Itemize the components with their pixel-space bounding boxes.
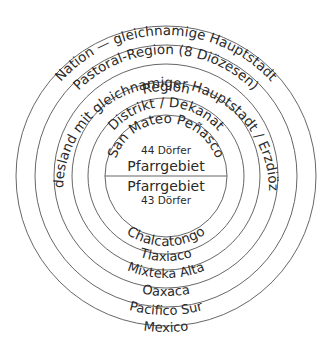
lower-village-count: 43 Dörfer [141,194,192,206]
label-mexico: Mexico [143,318,189,335]
lower-parish-label: Pfarrgebiet [127,178,205,194]
upper-parish-label: Pfarrgebiet [127,158,205,174]
upper-village-count: 44 Dörfer [141,144,192,156]
label-oaxaca: Oaxaca [141,282,191,299]
nested-hierarchy-diagram: Nation — gleichnamige Hauptstadt Pastora… [0,0,330,349]
label-pacifico-sur: Pacifico Sur [128,298,205,318]
label-chalcatongo: Chalcatongo [125,222,208,249]
